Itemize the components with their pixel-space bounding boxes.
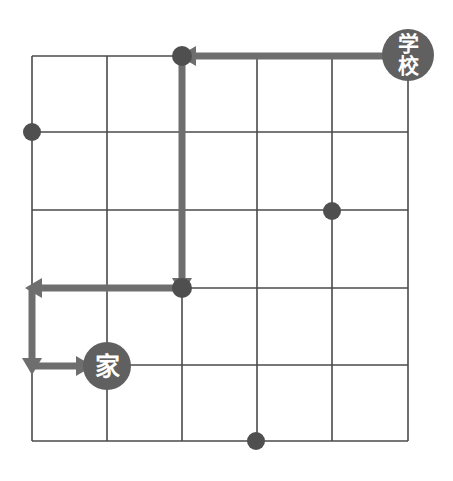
school-marker-label: 学校 <box>398 32 420 78</box>
school-marker[interactable]: 学校 <box>382 29 434 81</box>
intersection-dot-dot-mid-turn <box>172 278 192 298</box>
map-canvas: 学校家 <box>0 0 453 481</box>
intersection-dot-dot-left-edge <box>23 123 41 141</box>
home-marker[interactable]: 家 <box>83 342 131 390</box>
map-figure: 学校家 <box>0 0 453 481</box>
intersection-dot-dot-bottom-edge <box>247 432 265 450</box>
intersection-dot-dot-right-mid <box>323 202 341 220</box>
intersection-dot-dot-top-turn <box>172 46 192 66</box>
figure-background <box>0 0 453 481</box>
home-marker-label: 家 <box>95 352 120 381</box>
